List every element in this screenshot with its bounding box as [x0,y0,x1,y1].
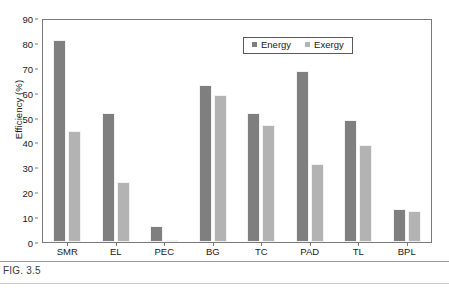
x-axis-label-bpl: BPL [398,246,416,257]
y-axis-ticks: 0102030405060708090 [0,19,38,243]
y-tick-label: 70 [22,63,33,74]
figure-caption: FIG. 3.5 [3,265,41,276]
bar-tl-exergy [359,145,372,242]
bars-layer [43,20,431,242]
figure-3-5: Efficiency (%) 0102030405060708090 SMREL… [0,0,449,288]
y-tick-label: 50 [22,113,33,124]
bar-bg-exergy [214,95,227,242]
y-tick-mark [35,43,38,44]
bar-pad-energy [296,71,309,242]
x-axis-label-tl: TL [353,246,364,257]
y-tick-label: 80 [22,38,33,49]
y-tick-label: 60 [22,88,33,99]
legend-swatch-exergy-icon [305,42,310,47]
y-tick-mark [35,143,38,144]
bar-tc-exergy [262,125,275,242]
bar-group [383,20,432,242]
x-axis-label-pad: PAD [300,246,319,257]
y-tick-mark [35,193,38,194]
y-tick-label: 0 [28,238,33,249]
bar-chart: Efficiency (%) 0102030405060708090 SMREL… [0,8,449,260]
bar-el-exergy [117,182,130,242]
y-tick-mark [35,218,38,219]
bar-tl-energy [344,120,357,242]
y-tick-mark [35,93,38,94]
bar-bpl-energy [393,209,406,242]
y-tick-mark [35,243,38,244]
bar-pad-exergy [311,164,324,242]
chart-legend: Energy Exergy [243,37,353,54]
legend-item-exergy: Exergy [305,40,344,50]
x-axis-label-pec: PEC [154,246,174,257]
y-tick-mark [35,19,38,20]
bar-bpl-exergy [408,211,421,242]
y-tick-mark [35,168,38,169]
bar-el-energy [102,113,115,243]
x-axis-label-bg: BG [206,246,220,257]
x-axis-label-tc: TC [255,246,268,257]
legend-item-energy: Energy [252,40,291,50]
legend-label-energy: Energy [261,40,291,50]
legend-label-exergy: Exergy [314,40,344,50]
y-tick-label: 20 [22,188,33,199]
bar-bg-energy [199,85,212,242]
x-axis-label-smr: SMR [57,246,78,257]
bar-pec-exergy [165,240,178,242]
caption-divider-bottom [0,283,449,284]
bar-group [43,20,92,242]
bar-smr-energy [53,40,66,242]
y-tick-label: 40 [22,138,33,149]
bar-smr-exergy [68,131,81,242]
bar-group [92,20,141,242]
legend-swatch-energy-icon [252,42,257,47]
x-axis-label-el: EL [110,246,122,257]
y-tick-label: 10 [22,213,33,224]
y-tick-label: 90 [22,14,33,25]
y-tick-mark [35,118,38,119]
bar-group [189,20,238,242]
y-tick-mark [35,68,38,69]
y-tick-label: 30 [22,163,33,174]
bar-pec-energy [150,226,163,242]
bar-group [140,20,189,242]
caption-divider-top [0,261,449,262]
x-axis-labels: SMRELPECBGTCPADTLBPL [43,246,431,262]
bar-tc-energy [247,113,260,243]
